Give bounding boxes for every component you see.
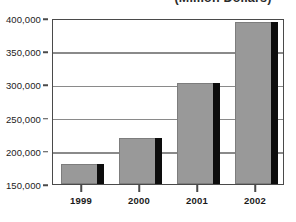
y-tick-label: 300,000 [6,80,41,91]
y-tick-label: 250,000 [6,113,41,124]
y-tick-mark [43,118,48,120]
bar-shadow [97,164,104,184]
y-tick-label: 200,000 [6,146,41,157]
x-tick-mark [138,185,140,192]
bar-2000 [119,138,162,184]
plot-area [52,19,284,185]
y-axis: 150,000200,000250,000300,000350,000400,0… [0,19,48,185]
x-tick-mark [254,185,256,192]
y-tick-mark [43,151,48,153]
y-tick-mark [43,18,48,20]
bar-shadow [213,83,220,184]
y-tick-label: 150,000 [6,180,41,191]
x-tick-mark [80,185,82,192]
y-tick-mark [43,51,48,53]
bar-2001 [177,83,220,184]
x-tick-label-1999: 1999 [70,195,92,206]
bar-2002 [235,22,278,184]
x-axis: 1999200020012002 [52,185,284,215]
x-tick-label-2001: 2001 [186,195,208,206]
bar-shadow [271,22,278,184]
y-tick-mark [43,85,48,87]
x-tick-label-2002: 2002 [244,195,266,206]
y-tick-mark [43,184,48,186]
y-tick-label: 400,000 [6,14,41,25]
bar-chart-figure: (Million Dollars) 150,000200,000250,0003… [0,0,296,222]
y-tick-label: 350,000 [6,47,41,58]
bar-1999 [61,164,104,184]
x-tick-label-2000: 2000 [128,195,150,206]
x-tick-mark [196,185,198,192]
bar-shadow [155,138,162,184]
chart-title: (Million Dollars) [150,0,296,5]
